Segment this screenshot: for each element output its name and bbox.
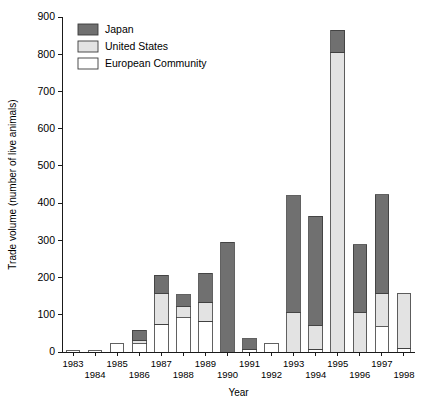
chart-container: 0100200300400500600700800900Trade volume… <box>0 0 425 405</box>
bar-segment[interactable] <box>265 344 279 352</box>
x-tick-label: 1996 <box>349 369 370 380</box>
x-tick-label: 1998 <box>393 369 414 380</box>
y-tick-label: 800 <box>37 48 55 60</box>
bar-1990[interactable] <box>221 242 235 352</box>
bar-segment[interactable] <box>243 339 257 349</box>
bar-1993[interactable] <box>287 196 301 352</box>
bar-1986[interactable] <box>132 330 146 352</box>
bar-1985[interactable] <box>110 344 124 352</box>
x-tick-label: 1993 <box>283 358 304 369</box>
bar-segment[interactable] <box>331 52 345 352</box>
y-tick-label: 700 <box>37 85 55 97</box>
bar-segment[interactable] <box>287 313 301 352</box>
bar-segment[interactable] <box>199 321 213 352</box>
bar-1988[interactable] <box>177 295 191 352</box>
bar-1987[interactable] <box>154 275 168 352</box>
bar-segment[interactable] <box>132 344 146 352</box>
y-tick-label: 0 <box>49 345 55 357</box>
bar-segment[interactable] <box>154 294 168 325</box>
legend-label: United States <box>105 40 168 52</box>
bar-segment[interactable] <box>132 341 146 344</box>
bar-segment[interactable] <box>154 275 168 294</box>
bar-segment[interactable] <box>375 293 389 327</box>
bar-segment[interactable] <box>375 195 389 294</box>
x-tick-label: 1986 <box>129 369 150 380</box>
legend-label: European Community <box>105 57 207 69</box>
bar-segment[interactable] <box>397 293 411 348</box>
bar-1994[interactable] <box>309 216 323 352</box>
bar-1998[interactable] <box>397 293 411 352</box>
y-tick-label: 300 <box>37 234 55 246</box>
bar-segment[interactable] <box>375 327 389 352</box>
bar-segment[interactable] <box>110 344 124 352</box>
legend-swatch <box>78 41 98 52</box>
bar-segment[interactable] <box>221 242 235 352</box>
x-tick-label: 1995 <box>327 358 348 369</box>
bar-1989[interactable] <box>199 273 213 352</box>
y-axis: 0100200300400500600700800900 <box>37 10 62 357</box>
x-tick-label: 1984 <box>85 369 106 380</box>
x-axis-title: Year <box>228 387 249 398</box>
x-tick-label: 1983 <box>62 358 83 369</box>
bar-segment[interactable] <box>309 216 323 326</box>
bar-segment[interactable] <box>177 295 191 307</box>
bar-1995[interactable] <box>331 30 345 352</box>
y-tick-label: 400 <box>37 196 55 208</box>
x-axis: 1983198419851986198719881989199019911992… <box>62 352 415 380</box>
stacked-bar-chart: 0100200300400500600700800900Trade volume… <box>0 0 425 405</box>
bar-1996[interactable] <box>353 245 367 352</box>
x-tick-label: 1990 <box>217 369 238 380</box>
bar-segment[interactable] <box>353 245 367 313</box>
y-tick-label: 100 <box>37 308 55 320</box>
x-tick-label: 1988 <box>173 369 194 380</box>
x-tick-label: 1991 <box>239 358 260 369</box>
y-axis-title: Trade volume (number of live animals) <box>7 99 18 269</box>
x-tick-label: 1985 <box>107 358 128 369</box>
y-tick-label: 500 <box>37 159 55 171</box>
x-tick-label: 1987 <box>151 358 172 369</box>
bar-segment[interactable] <box>331 30 345 52</box>
bar-segment[interactable] <box>177 318 191 352</box>
bar-segment[interactable] <box>177 307 191 318</box>
x-tick-label: 1994 <box>305 369 326 380</box>
legend-label: Japan <box>105 23 134 35</box>
x-tick-label: 1997 <box>371 358 392 369</box>
legend-swatch <box>78 24 98 35</box>
bar-segment[interactable] <box>287 196 301 313</box>
y-tick-label: 900 <box>37 10 55 22</box>
bar-segment[interactable] <box>353 313 367 352</box>
bar-segment[interactable] <box>309 326 323 349</box>
legend-swatch <box>78 58 98 69</box>
bar-1992[interactable] <box>265 344 279 352</box>
bar-1997[interactable] <box>375 195 389 352</box>
y-tick-label: 600 <box>37 122 55 134</box>
y-tick-label: 200 <box>37 271 55 283</box>
bars-group <box>66 30 411 352</box>
x-tick-label: 1992 <box>261 369 282 380</box>
bar-segment[interactable] <box>397 348 411 352</box>
bar-segment[interactable] <box>199 302 213 321</box>
bar-1991[interactable] <box>243 339 257 352</box>
x-tick-label: 1989 <box>195 358 216 369</box>
bar-segment[interactable] <box>132 330 146 340</box>
bar-segment[interactable] <box>199 273 213 302</box>
legend: JapanUnited StatesEuropean Community <box>78 23 207 69</box>
bar-segment[interactable] <box>154 324 168 352</box>
